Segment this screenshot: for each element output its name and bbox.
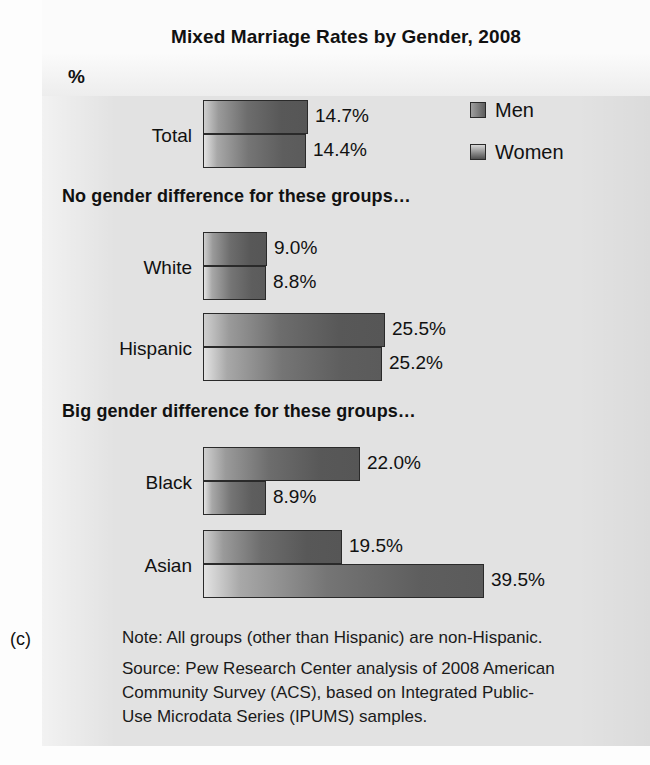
section-heading-no-gender-difference: No gender difference for these groups… bbox=[62, 186, 411, 207]
group-label-white: White bbox=[62, 257, 192, 279]
legend-swatch-women-icon bbox=[470, 144, 486, 160]
legend-label-women: Women bbox=[495, 142, 564, 162]
bar-value-black-women: 8.9% bbox=[273, 486, 316, 508]
bar-value-white-women: 8.8% bbox=[273, 271, 316, 293]
chart-title: Mixed Marriage Rates by Gender, 2008 bbox=[42, 26, 650, 48]
bar-value-white-men: 9.0% bbox=[274, 237, 317, 259]
figure-letter-label: (c) bbox=[10, 629, 31, 650]
bar-asian-men[interactable] bbox=[203, 530, 342, 564]
bar-white-men[interactable] bbox=[203, 232, 267, 266]
group-label-hispanic: Hispanic bbox=[40, 338, 192, 360]
section-heading-big-gender-difference: Big gender difference for these groups… bbox=[62, 401, 416, 422]
bar-black-women[interactable] bbox=[203, 481, 266, 515]
bar-asian-women[interactable] bbox=[203, 564, 484, 598]
group-label-black: Black bbox=[62, 472, 192, 494]
source-block: Source: Pew Research Center analysis of … bbox=[122, 657, 602, 729]
legend-label-men: Men bbox=[495, 100, 534, 120]
bar-value-black-men: 22.0% bbox=[367, 452, 421, 474]
note-block: Note: All groups (other than Hispanic) a… bbox=[122, 626, 602, 650]
source-line-1: Source: Pew Research Center analysis of … bbox=[122, 657, 602, 681]
bar-hispanic-men[interactable] bbox=[203, 313, 385, 347]
bar-value-total-men: 14.7% bbox=[315, 105, 369, 127]
bar-value-asian-men: 19.5% bbox=[349, 535, 403, 557]
legend-swatch-men-icon bbox=[470, 102, 486, 118]
source-line-2: Community Survey (ACS), based on Integra… bbox=[122, 681, 602, 705]
note-line-1: Note: All groups (other than Hispanic) a… bbox=[122, 626, 602, 650]
bar-value-hispanic-women: 25.2% bbox=[389, 352, 443, 374]
axis-unit-label: % bbox=[68, 66, 85, 88]
chart-legend: Men Women bbox=[470, 100, 564, 184]
bar-hispanic-women[interactable] bbox=[203, 347, 382, 381]
legend-item-women[interactable]: Women bbox=[470, 142, 564, 162]
bar-value-hispanic-men: 25.5% bbox=[392, 318, 446, 340]
bar-value-total-women: 14.4% bbox=[313, 139, 367, 161]
figure-content-layer: Mixed Marriage Rates by Gender, 2008 % M… bbox=[0, 0, 650, 765]
bar-white-women[interactable] bbox=[203, 266, 266, 300]
source-line-3: Use Microdata Series (IPUMS) samples. bbox=[122, 705, 602, 729]
bar-value-asian-women: 39.5% bbox=[491, 569, 545, 591]
bar-total-men[interactable] bbox=[203, 100, 308, 134]
bar-black-men[interactable] bbox=[203, 447, 360, 481]
bar-total-women[interactable] bbox=[203, 134, 306, 168]
group-label-asian: Asian bbox=[62, 555, 192, 577]
figure-footnotes: Note: All groups (other than Hispanic) a… bbox=[122, 626, 602, 736]
group-label-total: Total bbox=[62, 125, 192, 147]
legend-item-men[interactable]: Men bbox=[470, 100, 564, 120]
